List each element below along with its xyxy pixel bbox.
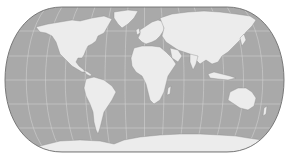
world-map: [0, 0, 293, 161]
